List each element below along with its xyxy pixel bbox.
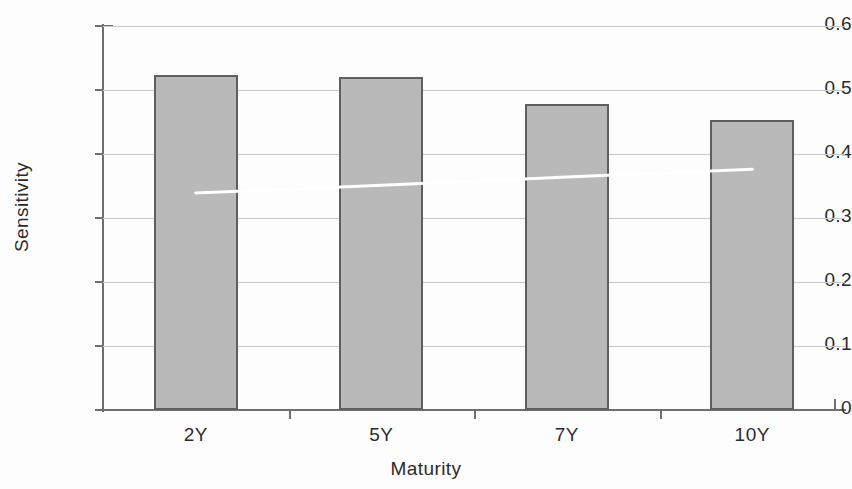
x-axis-tick-label: 10Y bbox=[692, 424, 812, 446]
bar-chart: Sensitivity 0.60.50.40.30.20.10 2Y5Y7Y10… bbox=[0, 0, 852, 489]
x-axis-title: Maturity bbox=[0, 458, 852, 480]
x-axis-tick bbox=[474, 410, 476, 419]
x-axis-tick-label: 5Y bbox=[321, 424, 441, 446]
x-axis-tick bbox=[660, 410, 662, 419]
x-axis-tick-label: 2Y bbox=[136, 424, 256, 446]
bar bbox=[339, 77, 423, 410]
gridline bbox=[103, 26, 845, 27]
x-axis-tick-label: 7Y bbox=[507, 424, 627, 446]
trend-line bbox=[196, 169, 753, 193]
plot-area bbox=[103, 26, 845, 410]
bar bbox=[710, 120, 794, 410]
y-axis-title: Sensitivity bbox=[11, 97, 33, 317]
bar bbox=[154, 75, 238, 410]
bar bbox=[525, 104, 609, 410]
x-axis-tick bbox=[289, 410, 291, 419]
